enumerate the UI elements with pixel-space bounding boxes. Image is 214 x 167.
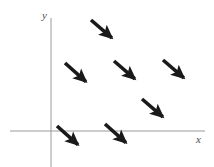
field-arrow [142,99,163,117]
field-arrow [105,124,126,143]
direction-field-figure: y x [0,0,214,167]
direction-field-arrows [57,20,184,145]
field-arrow [163,60,184,78]
field-arrow [91,20,112,38]
y-axis-label: y [42,10,47,21]
plot-canvas [0,0,214,167]
field-arrow [57,126,78,145]
axes-group [10,18,205,167]
x-axis-label: x [196,134,201,145]
field-arrow [65,63,86,82]
field-arrow [114,61,135,79]
